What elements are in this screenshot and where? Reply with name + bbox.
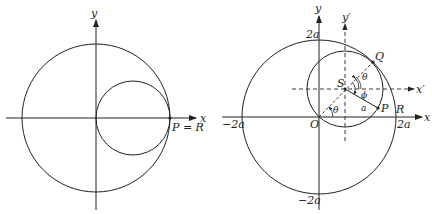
phi-arc	[352, 82, 355, 94]
y-label: y	[314, 2, 322, 15]
tick-left: −2a	[222, 118, 245, 131]
point-p	[168, 116, 171, 119]
tick-right: 2a	[396, 118, 411, 131]
tick-bottom: −2a	[298, 194, 321, 207]
tick-top: 2a	[305, 28, 320, 41]
x-prime-label: x′	[416, 83, 425, 96]
right-figure: x y x′ y′ O S Q P R θ θ ϕ a 2a −2a −2a 2…	[222, 2, 431, 210]
phi-label: ϕ	[361, 90, 367, 100]
x-label: x	[424, 111, 431, 124]
theta-label-origin: θ	[333, 105, 339, 115]
radius-label: a	[361, 103, 366, 113]
y-label: y	[90, 7, 98, 20]
theta-label-top: θ	[362, 72, 368, 82]
label-r: R	[395, 103, 404, 116]
point-label: P = R	[171, 121, 204, 134]
diagram-canvas: x y P = R x y x′ y′ O S Q P R θ θ ϕ a 2a…	[0, 0, 432, 214]
y-prime-label: y′	[341, 11, 351, 24]
point-p	[376, 106, 379, 109]
label-p: P	[380, 102, 389, 115]
label-s: S	[337, 77, 345, 90]
left-figure: x y P = R	[6, 7, 207, 210]
label-q: Q	[375, 50, 384, 63]
label-o: O	[310, 118, 319, 131]
